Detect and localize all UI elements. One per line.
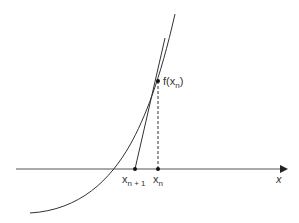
newton-method-diagram: f(xn) xn + 1 xn x: [0, 0, 299, 223]
xn-label: xn: [153, 173, 163, 185]
tangent-line: [135, 38, 165, 169]
diagram-canvas: [0, 0, 299, 223]
f-xn-label: f(xn): [163, 75, 183, 87]
xn1-label: xn + 1: [122, 173, 146, 185]
point-xn: [156, 167, 160, 171]
point-f-xn: [156, 79, 160, 83]
x-axis-label: x: [276, 173, 282, 185]
point-xn1: [133, 167, 137, 171]
axis-arrow-icon: [280, 165, 288, 173]
